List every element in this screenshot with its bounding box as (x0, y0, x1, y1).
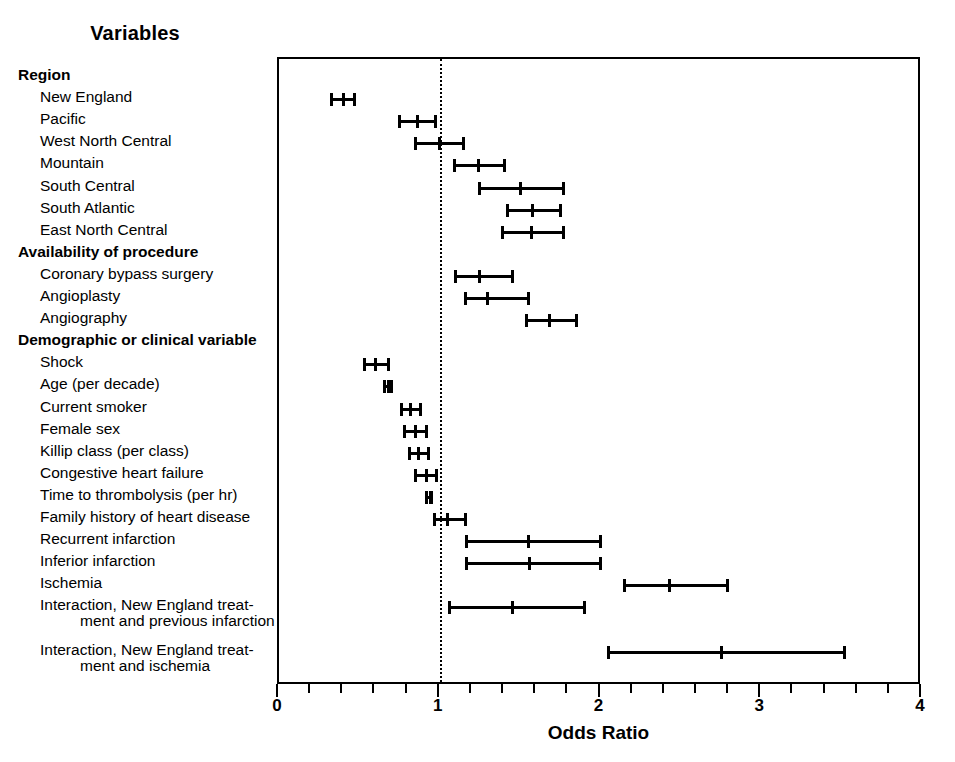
variable-label: South Atlantic (0, 200, 312, 216)
label-text: Recurrent infarction (40, 530, 175, 547)
label-text: Mountain (40, 154, 104, 171)
odds-ratio-point (548, 314, 551, 327)
axis-tick-minor (726, 684, 728, 693)
interval-line (607, 651, 847, 654)
upper-bound-cap (562, 226, 565, 239)
confidence-interval-marker (408, 447, 431, 460)
confidence-interval-marker (330, 93, 356, 106)
confidence-interval-marker (465, 557, 602, 570)
confidence-interval-marker (398, 115, 437, 128)
odds-ratio-point (511, 601, 514, 614)
odds-ratio-point (429, 491, 432, 504)
odds-ratio-point (416, 115, 419, 128)
odds-ratio-point (409, 403, 412, 416)
axis-tick-minor (630, 684, 632, 693)
lower-bound-cap (330, 93, 333, 106)
axis-tick-minor (855, 684, 857, 693)
variable-label: Recurrent infarction (0, 531, 312, 547)
lower-bound-cap (464, 292, 467, 305)
upper-bound-cap (462, 137, 465, 150)
upper-bound-cap (387, 358, 390, 371)
label-text: Pacific (40, 110, 86, 127)
x-axis-title: Odds Ratio (277, 722, 920, 744)
axis-tick-minor (372, 684, 374, 693)
label-text: Killip class (per class) (40, 442, 189, 459)
group-label: Availability of procedure (0, 244, 290, 260)
lower-bound-cap (448, 601, 451, 614)
label-text: Region (18, 66, 71, 83)
label-text: New England (40, 88, 132, 105)
variable-label: Interaction, New England treat-ment and … (0, 642, 312, 674)
upper-bound-cap (559, 204, 562, 217)
variable-label: West North Central (0, 133, 312, 149)
odds-ratio-point (425, 469, 428, 482)
interval-line (433, 518, 467, 521)
odds-ratio-point (531, 204, 534, 217)
odds-ratio-point (530, 226, 533, 239)
upper-bound-cap (434, 115, 437, 128)
lower-bound-cap (506, 204, 509, 217)
label-text: South Atlantic (40, 199, 135, 216)
variable-label: Inferior infarction (0, 553, 312, 569)
label-text: Interaction, New England treat- (40, 641, 254, 658)
upper-bound-cap (427, 447, 430, 460)
lower-bound-cap (414, 137, 417, 150)
variable-label: Shock (0, 354, 312, 370)
group-label: Region (0, 67, 290, 83)
upper-bound-cap (511, 270, 514, 283)
variable-label: New England (0, 89, 312, 105)
axis-tick-minor (308, 684, 310, 693)
odds-ratio-point (446, 513, 449, 526)
axis-tick-minor (340, 684, 342, 693)
confidence-interval-marker (607, 646, 847, 659)
lower-bound-cap (363, 358, 366, 371)
label-text: Current smoker (40, 398, 147, 415)
confidence-interval-marker (464, 292, 530, 305)
label-text: West North Central (40, 132, 172, 149)
confidence-interval-marker (453, 159, 506, 172)
confidence-interval-marker (414, 137, 465, 150)
variable-label: Interaction, New England treat-ment and … (0, 597, 312, 629)
confidence-interval-marker (478, 182, 565, 195)
lower-bound-cap (607, 646, 610, 659)
axis-tick-minor (469, 684, 471, 693)
variable-label: Mountain (0, 155, 312, 171)
confidence-interval-marker (506, 204, 562, 217)
reference-line-icon (440, 59, 442, 682)
odds-ratio-point (519, 182, 522, 195)
odds-ratio-point (417, 447, 420, 460)
label-text: Ischemia (40, 574, 102, 591)
lower-bound-cap (433, 513, 436, 526)
variable-label: Current smoker (0, 399, 312, 415)
upper-bound-cap (599, 535, 602, 548)
variable-label: Female sex (0, 421, 312, 437)
axis-tick-label: 2 (594, 696, 603, 716)
axis-tick-label: 3 (755, 696, 764, 716)
confidence-interval-marker (363, 358, 390, 371)
lower-bound-cap (403, 425, 406, 438)
axis-tick-minor (533, 684, 535, 693)
lower-bound-cap (400, 403, 403, 416)
axis-tick-minor (790, 684, 792, 693)
forest-plot-figure: Variables RegionNew EnglandPacificWest N… (0, 0, 955, 762)
variable-label: Age (per decade) (0, 376, 312, 392)
axis-tick-label: 0 (272, 696, 281, 716)
label-text: Demographic or clinical variable (18, 331, 257, 348)
variable-label: South Central (0, 178, 312, 194)
confidence-interval-marker (433, 513, 467, 526)
axis-tick-minor (565, 684, 567, 693)
interval-line (448, 606, 586, 609)
lower-bound-cap (501, 226, 504, 239)
odds-ratio-point (527, 535, 530, 548)
upper-bound-cap (425, 425, 428, 438)
group-label: Demographic or clinical variable (0, 332, 290, 348)
confidence-interval-marker (414, 469, 438, 482)
label-text: Time to thrombolysis (per hr) (40, 486, 238, 503)
axis-tick-minor (405, 684, 407, 693)
lower-bound-cap (398, 115, 401, 128)
lower-bound-cap (465, 535, 468, 548)
label-text: Age (per decade) (40, 375, 160, 392)
variable-label: Ischemia (0, 575, 312, 591)
axis-tick-minor (887, 684, 889, 693)
label-text: South Central (40, 177, 135, 194)
